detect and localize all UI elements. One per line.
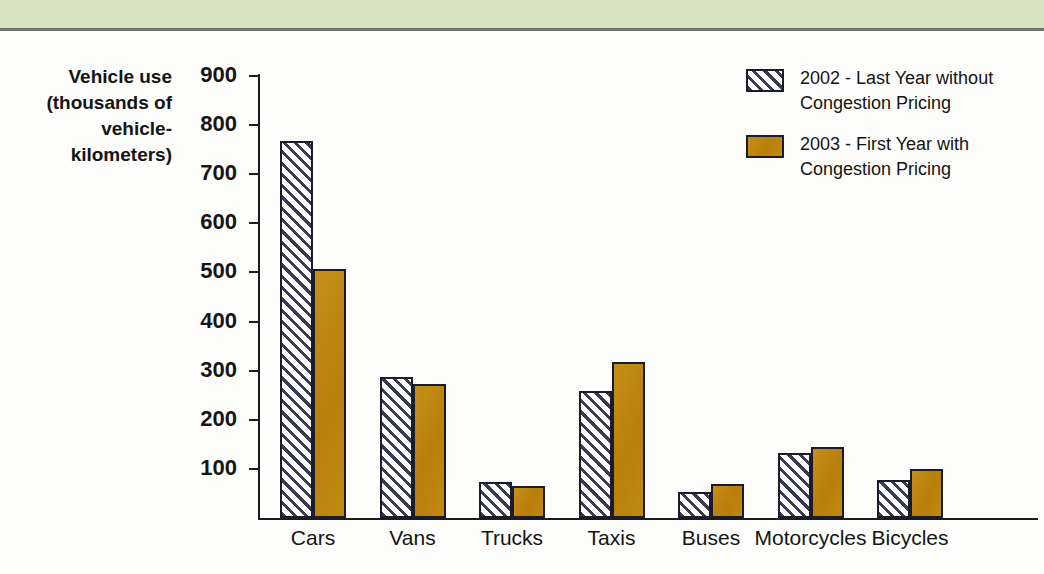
bar-motorcycles-2002: [778, 453, 811, 518]
legend-label-2003: 2003 - First Year with Congestion Pricin…: [800, 132, 1042, 182]
x-axis-line: [258, 518, 1038, 520]
legend-item-2003: 2003 - First Year with Congestion Pricin…: [746, 132, 1042, 182]
legend-label-2002-line2: Congestion Pricing: [800, 91, 1042, 116]
bar-bicycles-2003: [910, 469, 943, 518]
bar-taxis-2002: [579, 391, 612, 518]
chart-figure: Vehicle use(thousands ofvehicle-kilomete…: [0, 0, 1044, 574]
bar-taxis-2003: [612, 362, 645, 518]
bar-motorcycles-2003: [811, 447, 844, 518]
bar-trucks-2003: [512, 486, 545, 518]
bar-buses-2002: [678, 492, 711, 518]
legend-item-2002: 2002 - Last Year without Congestion Pric…: [746, 66, 1042, 116]
legend-label-2003-line1: 2003 - First Year with: [800, 132, 1042, 157]
bar-cars-2003: [313, 269, 346, 518]
legend-swatch-hatched-icon: [746, 69, 784, 92]
legend-label-2002: 2002 - Last Year without Congestion Pric…: [800, 66, 1042, 116]
chart-legend: 2002 - Last Year without Congestion Pric…: [746, 66, 1042, 198]
bar-trucks-2002: [479, 482, 512, 518]
bar-bicycles-2002: [877, 480, 910, 518]
x-label-bicycles: Bicycles: [840, 526, 980, 550]
bar-vans-2002: [380, 377, 413, 518]
bar-cars-2002: [280, 141, 313, 518]
legend-swatch-solid-icon: [746, 135, 784, 158]
bar-vans-2003: [413, 384, 446, 518]
legend-label-2003-line2: Congestion Pricing: [800, 157, 1042, 182]
bar-buses-2003: [711, 484, 744, 518]
legend-label-2002-line1: 2002 - Last Year without: [800, 66, 1042, 91]
